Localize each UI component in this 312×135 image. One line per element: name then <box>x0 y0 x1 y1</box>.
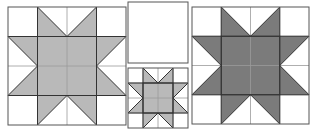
large-light-star <box>8 7 126 125</box>
small-light-star <box>128 68 188 128</box>
large-dark-star <box>192 7 309 124</box>
blank-square <box>128 2 188 63</box>
quilt-diagram <box>0 0 312 135</box>
